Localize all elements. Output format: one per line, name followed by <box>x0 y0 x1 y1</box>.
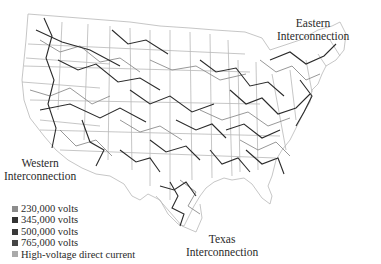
legend-label: 230,000 volts <box>21 203 78 214</box>
voltage-legend: 230,000 volts 345,000 volts 500,000 volt… <box>12 203 135 260</box>
texas-label-line2: Interconnection <box>186 246 258 259</box>
transmission-lines-dark <box>36 18 336 226</box>
legend-label: 765,000 volts <box>21 237 78 248</box>
swatch-icon <box>12 240 18 246</box>
western-label-line1: Western <box>4 157 76 170</box>
legend-label: 345,000 volts <box>21 214 78 225</box>
legend-item-230kv: 230,000 volts <box>12 203 135 214</box>
western-label-line2: Interconnection <box>4 170 76 183</box>
eastern-label-line2: Interconnection <box>277 30 349 43</box>
eastern-label-line1: Eastern <box>277 17 349 30</box>
legend-item-345kv: 345,000 volts <box>12 214 135 225</box>
eastern-interconnection-label: Eastern Interconnection <box>277 17 349 43</box>
legend-label: 500,000 volts <box>21 226 78 237</box>
legend-label: High-voltage direct current <box>21 249 135 260</box>
swatch-icon <box>12 229 18 235</box>
texas-label-line1: Texas <box>186 233 258 246</box>
swatch-icon <box>12 217 18 223</box>
western-interconnection-label: Western Interconnection <box>4 157 76 183</box>
swatch-icon <box>12 251 18 257</box>
transmission-lines-light <box>30 40 320 214</box>
legend-item-500kv: 500,000 volts <box>12 226 135 237</box>
legend-item-765kv: 765,000 volts <box>12 237 135 248</box>
texas-interconnection-label: Texas Interconnection <box>186 233 258 259</box>
legend-item-hvdc: High-voltage direct current <box>12 249 135 260</box>
swatch-icon <box>12 206 18 212</box>
